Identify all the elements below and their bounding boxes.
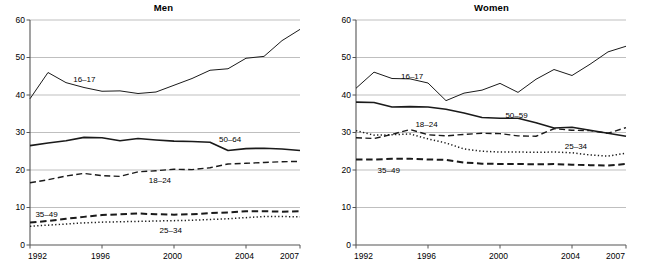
y-tick-label: 20 [3,166,25,175]
x-tick-label: 1996 [417,252,436,261]
series-line-50-64 [30,137,300,150]
series-label: 50–64 [219,136,241,144]
series-label: 50–59 [505,112,527,120]
x-tick-label: 2000 [489,252,508,261]
panel-men: Men 01020304050601992199620002004200716–… [0,0,327,268]
series-label: 35–49 [378,167,400,175]
panel-title-men: Men [0,2,327,13]
panel-women: Women 0102030405060199219962000200420071… [328,0,655,268]
x-tick-label: 2007 [606,252,625,261]
y-tick-label: 50 [329,53,351,62]
y-tick-label: 40 [329,91,351,100]
chart-svg-men [30,20,300,245]
series-line-50-59 [356,102,626,136]
y-tick-label: 30 [3,128,25,137]
x-tick-label: 2004 [561,252,580,261]
series-label: 25–34 [160,227,182,235]
y-tick-label: 30 [329,128,351,137]
y-tick-label: 10 [329,203,351,212]
x-tick-label: 2004 [235,252,254,261]
y-tick-label: 20 [329,166,351,175]
y-tick-label: 0 [329,241,351,250]
y-tick-label: 40 [3,91,25,100]
y-tick-label: 60 [3,16,25,25]
series-label: 16–17 [401,73,423,81]
series-label: 25–34 [565,143,587,151]
figure-two-panel-line-chart: Men 01020304050601992199620002004200716–… [0,0,655,268]
plot-area-women: 01020304050601992199620002004200716–1750… [356,20,626,245]
x-tick-label: 1992 [28,252,47,261]
y-tick-label: 60 [329,16,351,25]
x-tick-label: 2007 [280,252,299,261]
series-line-16-17 [30,29,300,98]
series-line-16-17 [356,46,626,100]
y-tick-label: 0 [3,241,25,250]
panel-title-women: Women [328,2,655,13]
y-tick-label: 50 [3,53,25,62]
y-tick-label: 10 [3,203,25,212]
series-label: 18–24 [149,177,171,185]
chart-svg-women [356,20,626,245]
plot-area-men: 01020304050601992199620002004200716–1750… [30,20,300,245]
series-line-35-49 [30,211,300,222]
series-label: 35–49 [35,211,57,219]
series-line-35-49 [356,159,626,166]
series-label: 18–24 [415,121,437,129]
x-tick-label: 1992 [354,252,373,261]
x-tick-label: 2000 [163,252,182,261]
x-tick-label: 1996 [91,252,110,261]
series-label: 16–17 [73,76,95,84]
